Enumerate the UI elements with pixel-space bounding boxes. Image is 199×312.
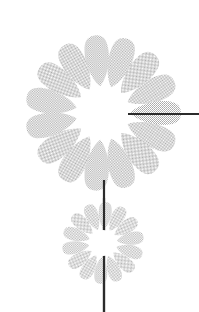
illustration-canvas bbox=[0, 0, 199, 312]
small-daisy-center-disc bbox=[90, 230, 116, 256]
daisy-figure bbox=[0, 0, 199, 312]
large-daisy-center-disc bbox=[77, 87, 129, 139]
